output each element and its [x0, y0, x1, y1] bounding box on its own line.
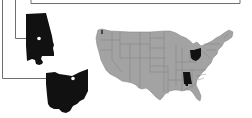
top-frame	[31, 0, 240, 4]
alabama-silhouette	[26, 13, 54, 65]
map-coast-detail	[101, 30, 103, 34]
ohio-marker	[71, 77, 75, 81]
alabama-marker	[37, 37, 41, 41]
map-diagram	[0, 0, 252, 118]
ohio-silhouette	[46, 69, 88, 113]
diagram-canvas	[0, 0, 252, 118]
us-map	[96, 29, 233, 101]
